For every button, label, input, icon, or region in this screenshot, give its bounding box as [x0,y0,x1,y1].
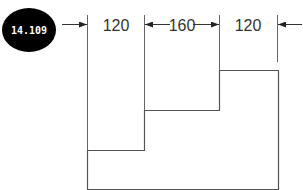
dimension-label-2: 160 [169,17,196,34]
figure-number-badge: 14.109 [2,8,56,52]
badge-label: 14.109 [11,25,47,36]
stepped-profile-diagram: 14.109 120 160 120 [0,0,303,190]
dimension-label-1: 120 [103,17,130,34]
extension-lines [88,15,278,150]
stepped-outline [88,71,279,190]
dimension-label-3: 120 [235,17,262,34]
